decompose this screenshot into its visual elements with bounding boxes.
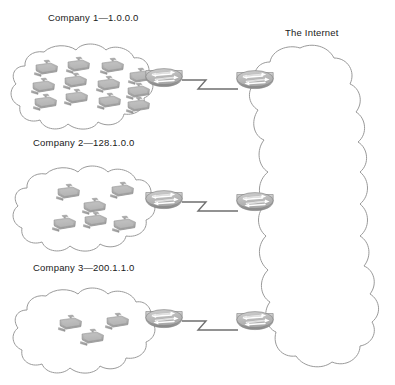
ce-router-3[interactable] <box>146 310 182 328</box>
pe-router-2[interactable] <box>237 193 273 211</box>
pe-router-1[interactable] <box>237 71 273 89</box>
serial-link-1 <box>182 80 238 89</box>
network-diagram-canvas: Company 1—1.0.0.0 Company 2—128.1.0.0 Co… <box>0 0 395 385</box>
company-1-label: Company 1—1.0.0.0 <box>48 12 139 23</box>
serial-link-2 <box>182 202 238 211</box>
ce-router-1[interactable] <box>146 69 182 87</box>
company-3-label: Company 3—200.1.1.0 <box>33 262 135 273</box>
company-2-group <box>13 166 273 251</box>
company-3-group <box>13 288 273 373</box>
pe-router-3[interactable] <box>237 312 273 330</box>
company-1-cloud <box>11 44 153 129</box>
company-2-label: Company 2—128.1.0.0 <box>33 137 135 148</box>
company-3-cloud <box>13 288 155 373</box>
internet-label: The Internet <box>285 27 339 38</box>
ce-router-2[interactable] <box>146 191 182 209</box>
diagram-svg <box>0 0 395 385</box>
serial-link-3 <box>182 321 238 330</box>
company-1-group <box>11 44 273 129</box>
